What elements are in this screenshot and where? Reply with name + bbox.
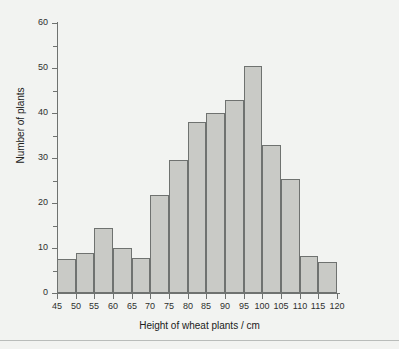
x-axis-tick <box>94 294 95 299</box>
histogram-bar <box>300 256 319 293</box>
y-axis-tick-label: 30 <box>4 153 48 162</box>
x-axis-tick <box>262 294 263 299</box>
histogram-bar <box>262 145 281 294</box>
histogram-bar <box>132 258 151 293</box>
y-axis-tick-label: 10 <box>4 243 48 252</box>
histogram-bar <box>318 262 337 293</box>
x-axis-tick <box>113 294 114 299</box>
x-axis-tick <box>281 294 282 299</box>
histogram-bar <box>225 100 244 294</box>
x-axis-tick-label-wrap: 120 <box>322 301 352 312</box>
histogram-bar <box>76 253 95 294</box>
histogram-bar <box>94 228 113 293</box>
chart-page: Number of plants 0102030405060 455055606… <box>0 0 399 349</box>
histogram-bar <box>113 248 132 293</box>
y-axis-tick-label-wrap: 20 <box>0 198 48 207</box>
histogram-bar <box>244 66 263 293</box>
histogram-bar <box>150 195 169 293</box>
y-axis-tick-label-wrap: 50 <box>0 63 48 72</box>
x-axis-tick <box>150 294 151 299</box>
y-axis-tick-label: 60 <box>4 18 48 27</box>
y-axis-tick-label-wrap: 30 <box>0 153 48 162</box>
x-axis-tick <box>132 294 133 299</box>
bottom-divider <box>0 340 399 341</box>
y-axis-tick-label: 20 <box>4 198 48 207</box>
y-axis-tick-label-wrap: 60 <box>0 18 48 27</box>
x-axis-tick <box>318 294 319 299</box>
x-axis-tick <box>206 294 207 299</box>
histogram-bar <box>206 113 225 293</box>
x-axis-tick <box>188 294 189 299</box>
histogram-bar <box>188 122 207 293</box>
x-axis-title: Height of wheat plants / cm <box>0 320 399 331</box>
y-axis-title: Number of plants <box>15 51 26 201</box>
y-axis-tick-label-wrap: 0 <box>0 288 48 297</box>
y-axis-tick-label: 40 <box>4 108 48 117</box>
x-axis-tick <box>57 294 58 299</box>
x-axis-tick <box>169 294 170 299</box>
x-axis-tick <box>337 294 338 299</box>
histogram-bar <box>281 179 300 293</box>
y-axis-tick-label: 50 <box>4 63 48 72</box>
y-axis-tick-label: 0 <box>4 288 48 297</box>
histogram-bar <box>169 160 188 293</box>
x-axis-tick-label: 120 <box>322 301 352 312</box>
y-axis-tick-label-wrap: 10 <box>0 243 48 252</box>
plot-area <box>57 23 337 293</box>
x-axis-tick <box>300 294 301 299</box>
x-axis-tick <box>225 294 226 299</box>
x-axis-tick <box>76 294 77 299</box>
y-axis-tick-label-wrap: 40 <box>0 108 48 117</box>
histogram-bar <box>57 259 76 293</box>
x-axis-line <box>56 293 340 294</box>
x-axis-tick <box>244 294 245 299</box>
